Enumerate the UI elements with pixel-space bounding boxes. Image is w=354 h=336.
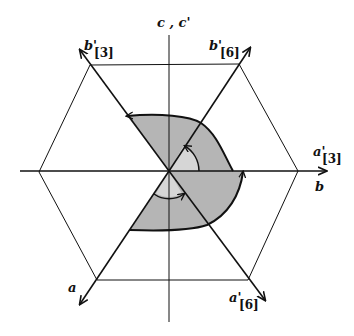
label-a-prime-3-sub: [3] xyxy=(322,152,342,166)
label-a-prime-6-sub: [6] xyxy=(239,298,259,312)
label-b-axis: b xyxy=(315,179,324,194)
label-b-prime-3-sub: [3] xyxy=(94,46,114,60)
label-a-axis: a xyxy=(68,280,76,295)
lower-shaded-sector xyxy=(130,171,243,230)
axis-b-prime-3 xyxy=(80,50,169,171)
label-b-prime-6-sub: [6] xyxy=(220,46,240,60)
axis-a xyxy=(80,171,169,304)
hexagonal-axes-diagram: c , c' b' [3] b' [6] a' [3] b a a' [6] xyxy=(0,0,354,336)
label-c-axis: c , c' xyxy=(157,15,190,30)
shaded-region xyxy=(127,115,243,231)
